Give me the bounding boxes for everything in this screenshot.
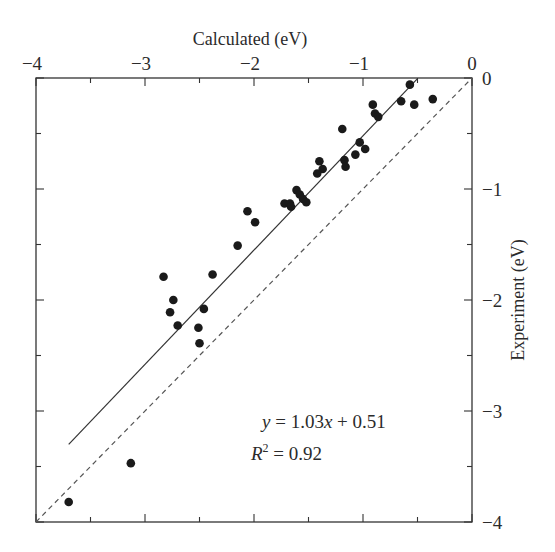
data-point xyxy=(287,202,296,211)
data-point xyxy=(302,198,311,207)
x-tick-label: −2 xyxy=(240,53,260,74)
x-tick-label: −1 xyxy=(349,53,369,74)
y-tick-label: −3 xyxy=(482,401,502,422)
data-point xyxy=(159,272,168,281)
y-axis-title: Experiment (eV) xyxy=(508,239,529,360)
data-point xyxy=(315,157,324,166)
scatter-chart: Calculated (eV) Experiment (eV) −4−3−2−1… xyxy=(0,0,555,552)
fit-line xyxy=(69,79,418,445)
r-squared: R2 = 0.92 xyxy=(250,441,322,464)
data-point xyxy=(341,163,350,172)
data-point xyxy=(355,138,364,147)
data-point xyxy=(406,80,415,89)
x-axis-tick-labels: −4−3−2−10 xyxy=(22,53,477,74)
data-point xyxy=(173,321,182,330)
data-point xyxy=(233,241,242,250)
data-point xyxy=(338,125,347,134)
data-point xyxy=(251,218,260,227)
data-point xyxy=(166,308,175,317)
fit-equation: y = 1.03x + 0.51 xyxy=(260,411,386,432)
data-point xyxy=(410,100,419,109)
data-point xyxy=(313,169,322,178)
data-point xyxy=(195,339,204,348)
data-point xyxy=(208,270,217,279)
data-point xyxy=(243,207,252,216)
data-point xyxy=(374,113,383,122)
data-point xyxy=(351,150,360,159)
x-tick-label: 0 xyxy=(467,53,477,74)
data-point xyxy=(194,323,203,332)
x-axis-title: Calculated (eV) xyxy=(193,29,307,50)
data-point xyxy=(428,95,437,104)
data-point xyxy=(397,97,406,106)
data-point xyxy=(64,498,73,507)
y-axis-tick-labels: 0−1−2−3−4 xyxy=(482,68,503,533)
x-tick-label: −4 xyxy=(22,53,43,74)
x-tick-label: −3 xyxy=(131,53,151,74)
data-point xyxy=(127,459,136,468)
data-point xyxy=(369,100,378,109)
y-tick-label: −1 xyxy=(482,179,502,200)
data-point xyxy=(169,296,178,305)
data-point xyxy=(200,305,209,314)
data-point xyxy=(361,145,370,154)
y-tick-label: 0 xyxy=(482,68,492,89)
y-tick-label: −2 xyxy=(482,290,502,311)
y-tick-label: −4 xyxy=(482,512,503,533)
